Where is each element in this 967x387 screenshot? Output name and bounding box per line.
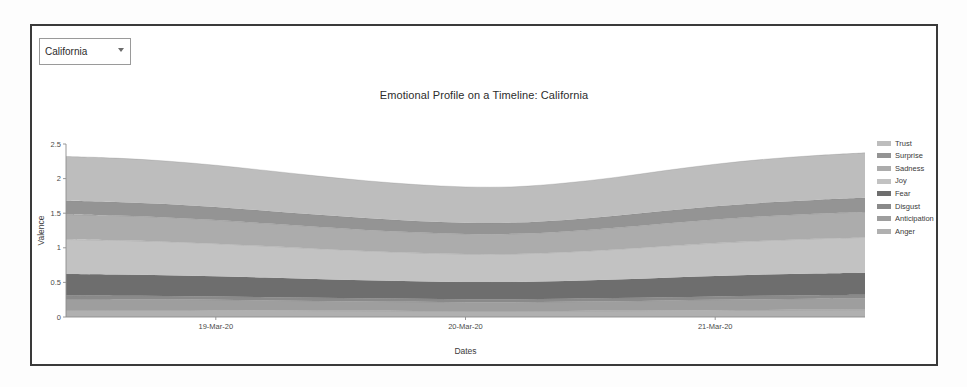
legend-item-sadness[interactable]: Sadness	[877, 162, 939, 175]
legend-label: Anticipation	[895, 215, 934, 223]
app-root: California Emotional Profile on a Timeli…	[0, 0, 967, 387]
legend-item-anger[interactable]: Anger	[877, 225, 939, 238]
legend-swatch-anticipation	[877, 216, 891, 221]
legend-item-trust[interactable]: Trust	[877, 137, 939, 150]
y-tick-label: 2	[57, 174, 61, 183]
legend-item-surprise[interactable]: Surprise	[877, 150, 939, 163]
x-tick-label: 20-Mar-20	[448, 322, 483, 331]
legend-swatch-anger	[877, 229, 891, 234]
chart-legend: TrustSurpriseSadnessJoyFearDisgustAntici…	[877, 137, 939, 238]
legend-swatch-joy	[877, 179, 891, 184]
legend-item-fear[interactable]: Fear	[877, 187, 939, 200]
legend-label: Trust	[895, 140, 912, 148]
x-axis-title: Dates	[454, 346, 476, 356]
stacked-area-chart: 00.511.522.519-Mar-2020-Mar-2021-Mar-20D…	[32, 26, 940, 368]
chart-panel: California Emotional Profile on a Timeli…	[30, 24, 938, 366]
y-tick-label: 0.5	[51, 278, 61, 287]
legend-swatch-trust	[877, 141, 891, 146]
legend-item-disgust[interactable]: Disgust	[877, 200, 939, 213]
legend-label: Fear	[895, 190, 910, 198]
y-tick-label: 1.5	[51, 209, 61, 218]
legend-label: Surprise	[895, 152, 923, 160]
legend-swatch-disgust	[877, 204, 891, 209]
x-tick-label: 19-Mar-20	[199, 322, 234, 331]
legend-label: Anger	[895, 228, 915, 236]
legend-item-joy[interactable]: Joy	[877, 175, 939, 188]
legend-item-anticipation[interactable]: Anticipation	[877, 213, 939, 226]
y-tick-label: 0	[57, 313, 61, 322]
y-tick-label: 1	[57, 243, 61, 252]
legend-label: Joy	[895, 177, 907, 185]
legend-swatch-fear	[877, 191, 891, 196]
legend-swatch-surprise	[877, 153, 891, 158]
legend-label: Disgust	[895, 203, 920, 211]
y-tick-label: 2.5	[51, 140, 61, 149]
x-tick-label: 21-Mar-20	[698, 322, 733, 331]
y-axis-title: Valence	[36, 215, 46, 245]
legend-label: Sadness	[895, 165, 924, 173]
legend-swatch-sadness	[877, 166, 891, 171]
